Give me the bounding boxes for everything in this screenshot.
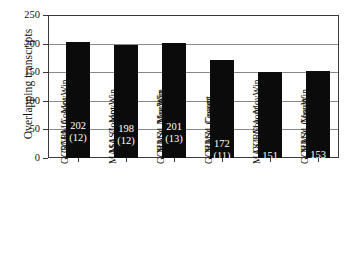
bar-2-value: 198: [118, 123, 134, 134]
bar-5-subvalue: (10): [261, 162, 279, 174]
y-tick-label-250: 250: [0, 10, 40, 20]
x-category-1-line1: GCRMA_Cosopt: [60, 153, 71, 164]
bar-3-value-label: 201 (13): [165, 121, 183, 144]
x-tick-mark-5: [270, 158, 271, 162]
y-tick-label-0: 0: [0, 153, 40, 163]
bar-1-subvalue: (12): [69, 132, 87, 144]
x-category-6-line1: GCRMA_Cosopt: [300, 153, 311, 164]
bar-3-value: 201: [166, 121, 182, 132]
x-category-2-line1: MAS4_Cosopt: [108, 153, 119, 164]
x-tick-mark-3: [174, 158, 175, 162]
y-tick-label-150: 150: [0, 67, 40, 77]
y-tick-label-100: 100: [0, 96, 40, 106]
x-category-6-line2: MAS4_MovWin: [300, 142, 311, 153]
y-axis-title: Overlapping transcripts: [22, 9, 34, 159]
bar-series: 202 (12) 198 (12) 201 (13) 172 (11): [48, 15, 339, 158]
bar-chart: Overlapping transcripts 250 200 150 100 …: [0, 0, 347, 254]
bar-2-subvalue: (12): [117, 135, 135, 147]
x-category-3-line1: GCRMA_MovWin: [156, 153, 167, 164]
x-tick-mark-2: [126, 158, 127, 162]
x-category-2-line2: MAS4_MovWin: [108, 142, 119, 153]
x-category-5-line1: MAS4_Cosopt: [252, 153, 263, 164]
x-category-1-line2: GCRMA_MovWin: [60, 142, 71, 153]
y-tick-label-50: 50: [0, 124, 40, 134]
bar-3-subvalue: (13): [165, 133, 183, 145]
x-tick-mark-1: [78, 158, 79, 162]
bar-1-value-label: 202 (12): [69, 120, 87, 143]
x-category-5-line2: GCRMA_MovWin: [252, 142, 263, 153]
y-tick-label-200: 200: [0, 39, 40, 49]
x-category-4-line2: MAS4_Cosopt: [204, 142, 215, 153]
x-category-3-line2: MAS4_MovWin: [156, 142, 167, 153]
bar-6-subvalue: (14): [309, 161, 327, 173]
bar-2-value-label: 198 (12): [117, 123, 135, 146]
x-category-4-line1: GCRMA_Cosopt: [204, 153, 215, 164]
x-tick-mark-6: [318, 158, 319, 162]
x-tick-mark-4: [222, 158, 223, 162]
bar-1-value: 202: [70, 120, 86, 131]
bar-4-value: 172: [214, 138, 230, 149]
y-tick-mark-0: [43, 158, 48, 159]
